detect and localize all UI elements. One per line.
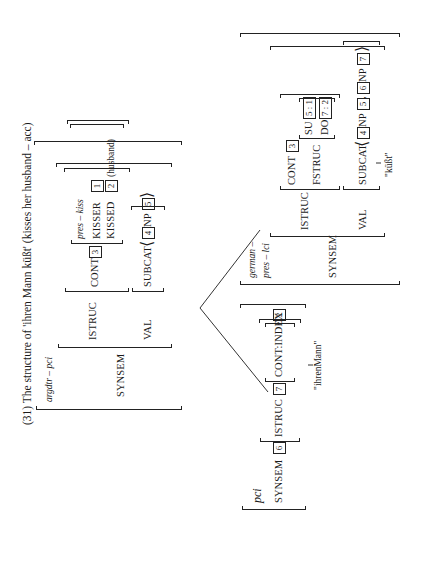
right-su-tag: 5 : 1 [303, 97, 316, 119]
right-fstruc-bracket-left [299, 135, 335, 139]
left-word: "ihrenMann" [314, 341, 324, 390]
mother-istruc-bracket-left [65, 288, 129, 292]
mother-synsem-label: SYNSEM [116, 354, 127, 397]
mother-subcat-tag1: 4 [142, 227, 155, 239]
right-subcat-label: SUBCAT [358, 144, 369, 185]
right-cont-label: CONT [287, 156, 298, 185]
right-type-line2: pres – lci [262, 243, 272, 278]
mother-outer-close-1 [67, 120, 129, 124]
right-subcat-np2: NP [358, 68, 369, 82]
mother-subcat-open-angle: ⟨ [139, 241, 155, 247]
right-do-tag: 7 : 2 [319, 97, 332, 119]
left-synsem-bracket-left [260, 438, 300, 442]
mother-subcat-label: SUBCAT [143, 246, 154, 287]
mother-kissed-tag: 2 [105, 180, 118, 192]
mother-cont-tag: 3 [89, 246, 102, 258]
left-synsem-label: SYNSEM [274, 460, 285, 503]
mother-bracket-left [36, 406, 182, 410]
rotated-page: (31) The structure of 'ihren Mann küßt' … [0, 0, 442, 570]
left-istruc-tag: 7 [273, 383, 286, 395]
right-subcat-close-angle: ⟩ [354, 46, 370, 52]
right-bracket-left [240, 281, 400, 285]
left-bracket-right [240, 304, 306, 308]
right-istruc-bracket-left [280, 186, 340, 190]
mother-synsem-bracket-left [58, 344, 172, 348]
mother-kissed-note: (husband) [107, 139, 117, 177]
left-cont-index-tag: 2 [273, 309, 286, 321]
right-val-label: VAL [358, 209, 369, 230]
right-istruc-label: ISTRUC [300, 192, 311, 230]
mother-istruc-label: ISTRUC [88, 302, 99, 340]
mother-cont-bracket-right [70, 124, 124, 128]
tree-branches [0, 0, 442, 570]
right-subcat-sep: , [357, 96, 368, 99]
mother-val-bracket-left [132, 288, 164, 292]
right-subcat-tag4: 7 [357, 53, 370, 65]
left-type: pci [251, 488, 263, 503]
right-subcat-open-angle: ⟨ [354, 141, 370, 147]
mother-cont-bracket-left [71, 240, 123, 244]
right-su-label: SU [304, 121, 315, 135]
left-cont-index-label: CONT:INDEX [274, 312, 285, 377]
right-subcat-tag3: 6 [357, 82, 370, 94]
right-cont-tag: 3 [286, 140, 299, 152]
right-val-bracket-left [343, 186, 380, 190]
mother-subcat-np: NP [143, 213, 154, 227]
right-subcat-tag1: 4 [357, 127, 370, 139]
mother-subcat-tag2: 5 [142, 198, 155, 210]
right-fstruc-label: FSTRUC [312, 145, 323, 185]
mother-kisser-label: KISSER [92, 202, 103, 239]
right-word: "küßt" [385, 152, 395, 177]
left-bracket-left [242, 506, 306, 510]
right-synsem-label: SYNSEM [328, 235, 339, 278]
mother-type: argdtr – pci [45, 357, 55, 402]
right-type-line1: german – [248, 242, 258, 278]
branch-left [200, 308, 268, 392]
mother-cont-label: CONT [90, 258, 101, 287]
right-subcat-tag2: 5 [357, 98, 370, 110]
mother-subcat-close-angle: ⟩ [139, 192, 155, 198]
mother-val-label: VAL [143, 319, 154, 340]
right-do-label: DO [320, 120, 331, 135]
right-bracket-right [240, 33, 400, 37]
left-synsem-tag: 6 [273, 442, 286, 454]
right-val-bracket-right [343, 41, 380, 45]
left-istruc-bracket-left [265, 378, 295, 382]
mother-kisser-tag: 1 [91, 180, 104, 192]
mother-kissed-label: KISSED [106, 202, 117, 239]
mother-cont-type: pres – kiss [76, 199, 86, 239]
left-istruc-label: ISTRUC [274, 399, 285, 437]
mother-istruc-bracket-right [64, 168, 130, 172]
right-subcat-np1: NP [358, 113, 369, 127]
right-synsem-bracket-left [270, 233, 385, 237]
